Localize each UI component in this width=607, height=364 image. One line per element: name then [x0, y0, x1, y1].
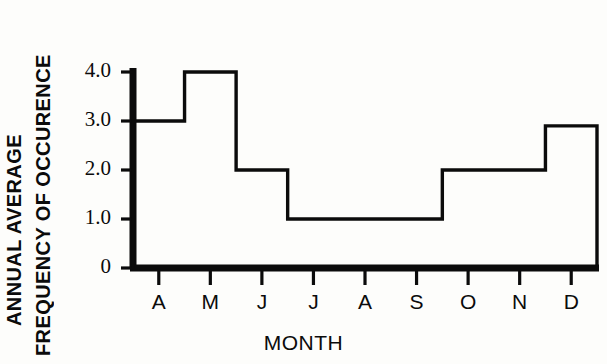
x-tick-label: N — [505, 290, 535, 314]
x-tick-label: A — [144, 290, 174, 314]
x-tick-label: S — [402, 290, 432, 314]
x-tick-label: O — [453, 290, 483, 314]
y-tick-label: 1.0 — [59, 205, 111, 230]
x-tick-label: D — [556, 290, 586, 314]
x-tick-label: J — [247, 290, 277, 314]
x-axis-title: MONTH — [0, 331, 607, 355]
y-tick-label: 3.0 — [59, 107, 111, 132]
x-tick-label: J — [298, 290, 328, 314]
chart-tick-marks — [121, 72, 571, 285]
y-tick-label: 4.0 — [59, 58, 111, 83]
x-tick-label: A — [350, 290, 380, 314]
y-tick-label: 0 — [59, 254, 111, 279]
chart-axes — [130, 68, 599, 268]
chart-figure: ANNUAL AVERAGE FREQUENCY OF OCCURENCE 01… — [0, 0, 607, 364]
x-tick-label: M — [195, 290, 225, 314]
chart-step-series — [133, 72, 597, 268]
y-tick-label: 2.0 — [59, 156, 111, 181]
